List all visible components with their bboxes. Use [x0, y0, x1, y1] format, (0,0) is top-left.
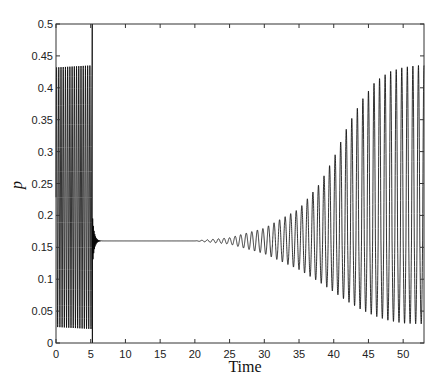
x-tick-label: 45 [362, 348, 374, 360]
x-tick-label: 35 [293, 348, 305, 360]
y-tick-label: 0.45 [32, 50, 53, 62]
line-chart: 05101520253035404550 00.050.10.150.20.25… [0, 0, 442, 389]
x-tick-label: 5 [88, 348, 94, 360]
y-tick-label: 0 [47, 337, 53, 349]
y-tick-label: 0.4 [38, 82, 53, 94]
y-tick-label: 0.1 [38, 273, 53, 285]
x-axis-title: Time [228, 358, 261, 375]
x-tick-label: 10 [119, 348, 131, 360]
x-tick-label: 0 [53, 348, 59, 360]
y-tick-label: 0.25 [32, 178, 53, 190]
y-tick-label: 0.2 [38, 209, 53, 221]
series-line-p [56, 24, 424, 343]
x-tick-label: 40 [328, 348, 340, 360]
y-tick-label: 0.35 [32, 114, 53, 126]
plot-frame [56, 24, 424, 343]
y-tick-label: 0.3 [38, 146, 53, 158]
y-tick-label: 0.5 [38, 18, 53, 30]
x-tick-label: 15 [154, 348, 166, 360]
x-axis: 05101520253035404550 [53, 24, 409, 360]
x-tick-label: 50 [397, 348, 409, 360]
y-tick-label: 0.15 [32, 241, 53, 253]
y-tick-label: 0.05 [32, 305, 53, 317]
plot-series [56, 24, 424, 343]
y-axis-title: p [8, 181, 26, 190]
x-tick-label: 20 [189, 348, 201, 360]
